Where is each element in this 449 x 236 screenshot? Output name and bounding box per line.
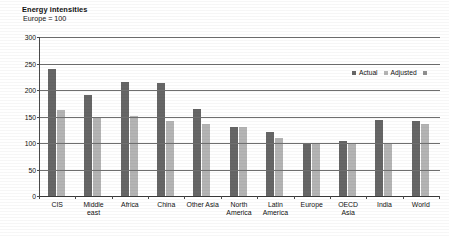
x-axis-tick-mark (294, 196, 295, 199)
y-axis-tick-mark (37, 143, 40, 144)
x-axis-tick-mark (403, 196, 404, 199)
legend-swatch-dark-icon (352, 71, 356, 75)
gridline (40, 170, 440, 171)
chart-figure: Energy intensities Europe = 100 05010015… (0, 0, 449, 236)
y-axis-tick-mark (37, 90, 40, 91)
x-axis-tick-mark (366, 196, 367, 199)
y-axis-tick-label: 0 (10, 193, 40, 200)
x-axis-tick-mark (330, 196, 331, 199)
x-axis-tick-mark (221, 196, 222, 199)
x-axis-tick-label: Other Asia (184, 201, 220, 209)
x-axis-tick-label: Africa (112, 201, 148, 209)
gridline (40, 143, 440, 144)
x-axis-tick-label: China (148, 201, 184, 209)
bar-actual (375, 120, 383, 196)
bar-adjusted (239, 127, 247, 196)
x-axis-tick-label: Latin America (257, 201, 293, 217)
y-axis-tick-label: 250 (10, 60, 40, 67)
legend-label-adjusted: Adjusted (391, 69, 417, 76)
x-axis-tick-label: CIS (39, 201, 75, 209)
x-axis-tick-mark (75, 196, 76, 199)
x-axis: CISMiddle eastAfricaChinaOther AsiaNorth… (39, 196, 439, 236)
y-axis-tick-label: 50 (10, 166, 40, 173)
bar-actual (412, 121, 420, 196)
x-axis-tick-mark (148, 196, 149, 199)
title-block: Energy intensities Europe = 100 (22, 6, 87, 23)
x-axis-tick-mark (184, 196, 185, 199)
x-axis-tick-label: India (366, 201, 402, 209)
x-axis-tick-label: World (403, 201, 439, 209)
x-axis-tick-mark (112, 196, 113, 199)
bar-adjusted (421, 124, 429, 196)
bar-adjusted (275, 138, 283, 196)
legend-swatch-light-icon (384, 71, 388, 75)
bar-actual (266, 132, 274, 196)
legend-swatch-extra-icon (423, 71, 427, 75)
bar-adjusted (166, 121, 174, 196)
y-axis-tick-mark (37, 170, 40, 171)
x-axis-tick-label: Middle east (75, 201, 111, 217)
x-axis-tick-label: Europe (294, 201, 330, 209)
bar-adjusted (93, 117, 101, 197)
y-axis-tick-label: 300 (10, 34, 40, 41)
chart-title: Energy intensities (22, 6, 87, 14)
bar-actual (84, 95, 92, 196)
gridline (40, 90, 440, 91)
x-axis-tick-mark (257, 196, 258, 199)
y-axis-tick-label: 200 (10, 87, 40, 94)
x-axis-tick-label: North America (221, 201, 257, 217)
legend-label-actual: Actual (359, 69, 378, 76)
bar-actual (48, 69, 56, 196)
x-axis-tick-label: OECD Asia (330, 201, 366, 217)
gridline (40, 64, 440, 65)
bar-actual (157, 83, 165, 196)
x-axis-tick-mark (39, 196, 40, 199)
gridline (40, 117, 440, 118)
bar-actual (121, 82, 129, 196)
y-axis-tick-mark (37, 64, 40, 65)
bar-adjusted (202, 124, 210, 196)
bar-actual (193, 109, 201, 196)
y-axis-tick-label: 100 (10, 140, 40, 147)
bar-adjusted (130, 116, 138, 196)
y-axis-tick-mark (37, 37, 40, 38)
y-axis-tick-mark (37, 117, 40, 118)
chart-legend: Actual Adjusted (352, 69, 427, 76)
x-axis-tick-mark (439, 196, 440, 199)
chart-subtitle: Europe = 100 (23, 15, 87, 23)
y-axis-tick-label: 150 (10, 113, 40, 120)
bar-adjusted (57, 110, 65, 196)
bar-actual (230, 127, 238, 196)
gridline (40, 37, 440, 38)
plot-area: 050100150200250300 (39, 37, 439, 196)
